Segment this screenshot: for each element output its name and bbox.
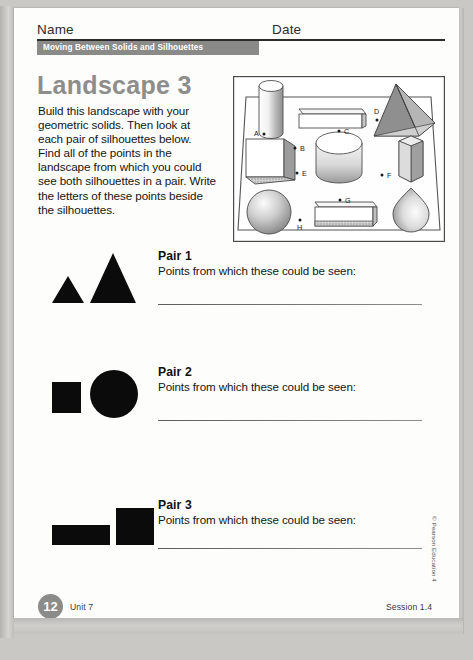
- lesson-banner-label: Moving Between Solids and Silhouettes: [43, 43, 203, 52]
- page-gutter-shadow: [0, 6, 14, 638]
- pair-2-prompt: Points from which these could be seen:: [158, 380, 356, 393]
- page-title: Landscape 3: [37, 71, 192, 100]
- pair-1-title: Pair 1: [158, 249, 192, 263]
- svg-text:H: H: [297, 223, 302, 232]
- pair-1-prompt: Points from which these could be seen:: [158, 264, 356, 277]
- svg-text:C: C: [344, 127, 349, 136]
- instructions-text: Build this landscape with your geometric…: [38, 104, 216, 217]
- pair-3-answer-line[interactable]: [158, 548, 422, 549]
- next-page-ghost-text: [20, 640, 450, 660]
- pair-3-prompt: Points from which these could be seen:: [158, 513, 356, 526]
- landscape-diagram: A B C D E F G H: [233, 76, 445, 242]
- silhouette-rectangle-wide: [52, 525, 110, 545]
- silhouette-triangle-large: [90, 253, 136, 303]
- pair-3-title: Pair 3: [158, 498, 192, 512]
- date-field-label: Date: [272, 22, 301, 37]
- solid-hexagonal-prism: [399, 136, 423, 182]
- svg-text:F: F: [387, 171, 392, 180]
- solid-sphere: [247, 190, 291, 234]
- pair-2-answer-line[interactable]: [158, 420, 422, 421]
- name-field-label: Name: [37, 22, 74, 37]
- session-label: Session 1.4: [386, 602, 432, 612]
- solid-cube: [246, 139, 295, 184]
- solid-rectangular-prism-flat: [299, 109, 366, 128]
- silhouette-square-small: [52, 382, 81, 413]
- worksheet-page: Name Date Moving Between Solids and Silh…: [14, 8, 459, 618]
- unit-label: Unit 7: [70, 602, 93, 612]
- silhouette-square-tall: [116, 508, 154, 545]
- silhouette-triangle-small: [52, 276, 84, 303]
- svg-text:A: A: [254, 129, 259, 138]
- page-number-badge: 12: [38, 594, 63, 619]
- scan-background: Name Date Moving Between Solids and Silh…: [0, 0, 473, 660]
- pair-2-title: Pair 2: [158, 365, 192, 379]
- page-edge-bottom: [14, 618, 463, 634]
- solid-rectangular-prism-wide: [315, 202, 377, 226]
- svg-text:D: D: [374, 107, 379, 116]
- silhouette-circle-large: [90, 370, 138, 418]
- copyright-notice: © Pearson Education 4: [431, 516, 438, 582]
- page-edge-right: [459, 8, 464, 634]
- svg-text:B: B: [300, 144, 305, 153]
- solid-cylinder-tall: [259, 81, 283, 139]
- solid-cylinder-wide: [316, 132, 362, 183]
- svg-text:E: E: [302, 169, 307, 178]
- svg-text:G: G: [345, 196, 351, 205]
- pair-1-answer-line[interactable]: [158, 304, 422, 305]
